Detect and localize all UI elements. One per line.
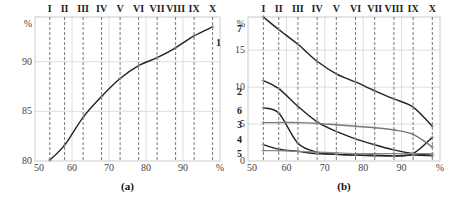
x-tick-label: 50: [247, 162, 257, 173]
y-tick-label: 90: [22, 56, 32, 67]
chart-caption: (a): [121, 180, 134, 193]
series-label: 5: [237, 148, 242, 159]
y-tick-label: 15: [235, 44, 245, 55]
data-point-marker: [392, 148, 396, 152]
x-tick-label: 80: [141, 162, 151, 173]
marker-label: III: [292, 3, 304, 14]
x-tick-label: 50: [34, 162, 44, 173]
series-label: 6: [237, 105, 242, 116]
data-point-marker: [392, 128, 396, 132]
plot-frame: [35, 17, 220, 161]
marker-label: V: [333, 3, 341, 14]
marker-label: IV: [96, 3, 108, 14]
data-point-marker: [354, 137, 358, 141]
data-point-marker: [392, 152, 396, 156]
marker-label: VII: [367, 3, 382, 14]
marker-label: I: [261, 3, 265, 14]
marker-label: I: [48, 3, 52, 14]
x-tick-label: 90: [397, 162, 407, 173]
y-tick-label: 80: [22, 155, 32, 166]
y-unit-label: %: [24, 18, 32, 29]
chart-a: IIIIIIIVVVIVIIVIIIIXX5060708090%808590%1…: [22, 3, 224, 193]
marker-label: III: [77, 3, 89, 14]
x-tick-label: 70: [104, 162, 114, 173]
series-label: 3: [237, 119, 242, 130]
data-point-marker: [262, 143, 266, 147]
series-7-line: [263, 17, 432, 126]
marker-label: V: [116, 3, 124, 14]
chart-caption: (b): [337, 180, 351, 193]
series-label: 4: [237, 134, 242, 145]
chart-b: IIIIIIIVVVIVIIVIIIIXX5060708090%051015%7…: [235, 3, 444, 193]
x-tick-label: 60: [67, 162, 77, 173]
marker-label: IV: [312, 3, 324, 14]
marker-label: II: [61, 3, 69, 14]
series-2-line: [263, 81, 432, 156]
x-tick-label: 60: [281, 162, 291, 173]
marker-label: X: [429, 3, 437, 14]
marker-label: II: [275, 3, 283, 14]
marker-label: VIII: [384, 3, 403, 14]
data-point-marker: [335, 123, 339, 127]
marker-label: X: [209, 3, 217, 14]
figure: IIIIIIIVVVIVIIVIIIIXX5060708090%808590%1…: [0, 0, 456, 198]
x-tick-label: %: [436, 162, 444, 173]
y-tick-label: 85: [22, 105, 32, 116]
series-1-line: [50, 27, 213, 160]
marker-label: IX: [189, 3, 201, 14]
series-label: 7: [237, 23, 242, 34]
series-3-line: [263, 123, 432, 147]
marker-label: VI: [133, 3, 144, 14]
x-tick-label: %: [216, 162, 224, 173]
series-label: 1: [216, 37, 221, 48]
marker-label: VI: [350, 3, 361, 14]
data-point-marker: [296, 150, 300, 154]
x-tick-label: 90: [178, 162, 188, 173]
marker-label: VIII: [166, 3, 185, 14]
marker-label: VII: [150, 3, 165, 14]
data-point-marker: [373, 126, 377, 130]
x-tick-label: 70: [320, 162, 330, 173]
marker-label: IX: [408, 3, 420, 14]
data-point-marker: [262, 149, 266, 153]
x-tick-label: 80: [358, 162, 368, 173]
plot-frame: [248, 17, 440, 161]
series-label: 2: [237, 86, 242, 97]
data-point-marker: [262, 106, 266, 110]
data-point-marker: [354, 124, 358, 128]
data-point-marker: [373, 143, 377, 147]
